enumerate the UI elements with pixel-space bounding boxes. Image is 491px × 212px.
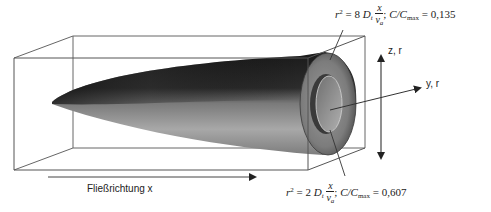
formula-ratio-value: 0,135	[431, 8, 456, 20]
formula-exponent: 2	[339, 8, 343, 16]
formula-coefficient: 2	[306, 186, 312, 198]
formula-exponent: 2	[290, 186, 294, 194]
formula-ratio-equals: =	[422, 8, 428, 20]
formula-dispersion-sub: t	[322, 192, 324, 200]
denominator-sub: a	[331, 197, 335, 205]
formula-ratio-sub: max	[407, 14, 419, 22]
box-edge	[14, 148, 73, 170]
diagram-canvas: z, r y, r Fließrichtung x	[0, 0, 491, 212]
formula-dispersion-D: D	[314, 186, 322, 198]
z-axis-label: z, r	[388, 45, 403, 56]
denominator-sub: a	[380, 19, 384, 27]
outer-surface-formula: r2 = 8 Dt x va ; C/Cmax = 0,135	[335, 3, 455, 27]
inner-surface-formula: r2 = 2 Dt x va ; C/Cmax = 0,607	[286, 181, 406, 205]
plume-tip-shading	[52, 56, 300, 104]
plume-diagram: z, r y, r Fließrichtung x r2 = 8 Dt x va…	[0, 0, 491, 212]
formula-dispersion-sub: t	[371, 14, 373, 22]
formula-separator: ;	[334, 186, 337, 198]
formula-ratio-value: 0,607	[382, 186, 407, 198]
formula-equals: =	[346, 8, 352, 20]
formula-ratio-label: C/C	[389, 8, 407, 20]
box-edge	[308, 36, 365, 58]
flow-direction-label: Fließrichtung x	[87, 183, 153, 194]
y-axis-label: y, r	[426, 78, 440, 89]
formula-ratio-sub: max	[358, 192, 370, 200]
formula-equals: =	[297, 186, 303, 198]
formula-ratio-label: C/C	[340, 186, 358, 198]
formula-ratio-equals: =	[373, 186, 379, 198]
box-edge	[14, 36, 73, 58]
plume-inner-core	[316, 76, 342, 132]
formula-coefficient: 8	[355, 8, 361, 20]
formula-separator: ;	[383, 8, 386, 20]
formula-dispersion-D: D	[363, 8, 371, 20]
